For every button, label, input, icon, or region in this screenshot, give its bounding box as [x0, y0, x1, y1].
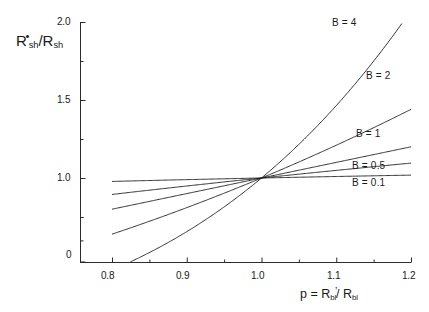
x-tick-label-1_0: 1.0	[251, 270, 264, 281]
x-axis-ticks	[113, 258, 412, 263]
curve-label-b1: B = 1	[356, 128, 381, 139]
y-axis-title-r2: R	[43, 32, 54, 49]
curve-label-b4: B = 4	[332, 17, 357, 28]
x-axis-title-p: p	[300, 287, 307, 301]
x-axis-title-r1: R	[321, 287, 330, 301]
y-tick-label-1_5: 1.5	[57, 94, 70, 105]
curve-label-b2: B = 2	[366, 70, 391, 81]
curve-label-b01: B = 0.1	[352, 177, 385, 188]
x-axis-title: p = Rbl’/ Rbl	[300, 285, 358, 302]
y-tick-label-0: 0	[66, 249, 71, 260]
x-tick-label-1_2: 1.2	[402, 270, 415, 281]
y-tick-label-1_0: 1.0	[57, 172, 70, 183]
axes-group	[81, 22, 412, 263]
curve-label-b05: B = 0.5	[352, 160, 385, 171]
x-tick-label-1_1: 1.1	[327, 270, 340, 281]
chart-figure: 2.0 1.5 1.0 0 0.8 0.9 1.0 1.1 1.2 R•sh/R…	[0, 0, 429, 312]
curve-b-4	[130, 24, 401, 262]
data-curves-group	[112, 24, 411, 262]
y-axis-ticks	[81, 23, 86, 263]
x-axis-title-r2: R	[343, 287, 352, 301]
y-axis-title-sub1: sh	[29, 40, 39, 50]
plot-canvas	[0, 0, 429, 312]
y-tick-label-2: 2.0	[57, 16, 70, 27]
x-axis-title-slash: /	[336, 287, 339, 301]
x-tick-label-0_8: 0.8	[101, 270, 114, 281]
y-axis-title-sub2: sh	[53, 40, 63, 50]
y-axis-title: R•sh/Rsh	[16, 30, 63, 50]
x-axis-title-eq: =	[310, 287, 317, 301]
x-axis-title-sub2: bl	[352, 293, 358, 302]
x-tick-label-0_9: 0.9	[176, 270, 189, 281]
